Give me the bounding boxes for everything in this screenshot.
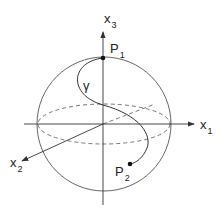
- sphere-diagram: [0, 0, 223, 216]
- x2-label: x2: [10, 156, 23, 169]
- x1-label-main: x: [200, 117, 207, 132]
- x1-label-sub: 1: [208, 126, 213, 136]
- x3-label-sub: 3: [112, 20, 117, 30]
- p2-label-main: P: [115, 164, 124, 179]
- x2-label-main: x: [10, 155, 17, 170]
- p2-label-sub: 2: [125, 173, 130, 183]
- point-p1: [101, 56, 106, 61]
- x2-axis: [22, 124, 103, 161]
- x2-label-sub: 2: [18, 164, 23, 174]
- p1-label-main: P: [110, 41, 119, 56]
- p1-label-sub: 1: [120, 50, 125, 60]
- p2-label: P2: [115, 165, 130, 178]
- p1-label: P1: [110, 42, 125, 55]
- x3-label: x3: [104, 12, 117, 25]
- x3-label-main: x: [104, 11, 111, 26]
- gamma-label: γ: [83, 79, 90, 92]
- x1-label: x1: [200, 118, 213, 131]
